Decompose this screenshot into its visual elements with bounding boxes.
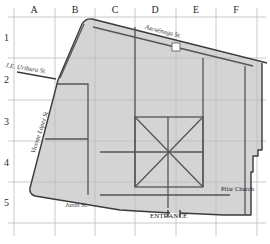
street-label-junin: Junín St. [65,202,88,209]
gate-marker [172,43,180,51]
row-label-4: 4 [4,158,9,168]
row-label-1: 1 [4,33,9,43]
row-label-5: 5 [4,198,9,208]
column-label-e: E [193,5,199,15]
row-label-3: 3 [4,117,9,127]
pilar-church-label: Pilar Church [221,186,254,193]
row-label-2: 2 [4,75,9,85]
column-label-a: A [30,5,37,15]
column-label-f: F [233,5,239,15]
column-label-b: B [72,5,79,15]
column-label-c: C [112,5,119,15]
column-label-d: D [151,5,158,15]
entrance-label: ENTRANCE [150,213,187,220]
